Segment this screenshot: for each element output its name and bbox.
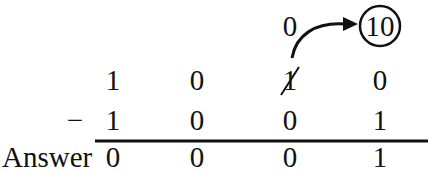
arrow-head-icon [343,17,358,31]
answer-digit: 0 [106,143,121,170]
answer-digit: 0 [283,143,298,170]
borrow-new-digit: 0 [283,12,298,41]
subtrahend-digit: 1 [373,106,388,135]
minuend-digit-struck: 1 [283,66,298,95]
answer-digit: 0 [190,143,205,170]
subtrahend-digit: 1 [106,106,121,135]
subtrahend-digit: 0 [283,106,298,135]
minus-operator: − [67,106,83,135]
minuend-digit: 1 [106,66,121,95]
subtrahend-digit: 0 [190,106,205,135]
minuend-digit: 0 [373,66,388,95]
minuend-digit: 0 [190,66,205,95]
answer-digit: 1 [373,143,388,170]
borrowed-value: 10 [366,12,395,41]
answer-label: Answer [2,143,92,170]
borrow-arrow-icon [292,24,345,58]
